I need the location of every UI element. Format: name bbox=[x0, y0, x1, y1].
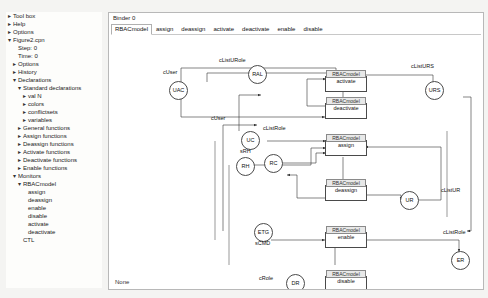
transition-deassign-label: deassign bbox=[335, 187, 357, 193]
tab-disable[interactable]: disable bbox=[299, 24, 326, 35]
place-rh[interactable]: RH bbox=[236, 157, 255, 176]
tree-item[interactable]: ▾Figure2.cpn bbox=[6, 36, 102, 44]
tree-item[interactable]: ▸Assign functions bbox=[6, 132, 102, 140]
tree-item-label: General functions bbox=[23, 124, 70, 132]
tree-item-label: conflictsets bbox=[28, 108, 58, 116]
tree-item[interactable]: ▸Enable functions bbox=[6, 164, 102, 172]
tab-deactivate[interactable]: deactivate bbox=[238, 24, 273, 35]
transition-deactivate[interactable]: RBACmodel deactivate bbox=[325, 103, 367, 119]
tree-item[interactable]: ▸Deassign functions bbox=[6, 140, 102, 148]
place-rc[interactable]: RC bbox=[264, 154, 283, 173]
tree-item[interactable]: ▸val N bbox=[6, 92, 102, 100]
tree-item-label: Deactivate functions bbox=[23, 156, 77, 164]
arc-label-cuser-top: cUser bbox=[163, 69, 177, 75]
tree-item-label: Time: 0 bbox=[18, 52, 38, 60]
transition-activate[interactable]: RBACmodel activate bbox=[325, 76, 367, 92]
petri-net-canvas[interactable]: RBACmodel activate RBACmodel deactivate … bbox=[111, 35, 479, 265]
tree-item[interactable]: ▾Monitors bbox=[6, 172, 102, 180]
transition-disable-tag: RBACmodel bbox=[326, 270, 366, 278]
tree-item-label: Monitors bbox=[18, 172, 41, 180]
place-ral[interactable]: RAL bbox=[248, 65, 267, 84]
status-text: None bbox=[115, 279, 129, 285]
project-tree-sidebar[interactable]: ▸Tool box▸Help▸Options▾Figure2.cpnStep: … bbox=[6, 12, 102, 288]
tree-item[interactable]: ▸Help bbox=[6, 20, 102, 28]
tree-item[interactable]: Time: 0 bbox=[6, 52, 102, 60]
tree-item[interactable]: ▸variables bbox=[6, 116, 102, 124]
place-er[interactable]: ER bbox=[451, 251, 470, 270]
arc-label-clistur: cListUR bbox=[441, 187, 460, 193]
transition-disable[interactable]: RBACmodel disable bbox=[325, 276, 367, 290]
tab-enable[interactable]: enable bbox=[273, 24, 299, 35]
transition-activate-tag: RBACmodel bbox=[326, 70, 366, 78]
place-rh-label: RH bbox=[242, 163, 250, 169]
place-ur[interactable]: UR bbox=[400, 191, 419, 210]
tree-item-label: Help bbox=[13, 20, 25, 28]
tree-item-label: activate bbox=[28, 220, 49, 228]
tab-deassign[interactable]: deassign bbox=[177, 24, 209, 35]
tree-item[interactable]: ▸Options bbox=[6, 60, 102, 68]
tree-item-label: enable bbox=[28, 204, 46, 212]
tree-item-label: Tool box bbox=[13, 12, 35, 20]
arc-label-clisturole-top: cListURole bbox=[219, 57, 246, 63]
tree-item[interactable]: enable bbox=[6, 204, 102, 212]
place-etg-label: ETG bbox=[258, 229, 269, 235]
arc-label-clistrole-mid: cListRole bbox=[263, 125, 286, 131]
binder-title: Binder 0 bbox=[113, 15, 135, 21]
tree-item-label: Declarations bbox=[18, 76, 51, 84]
arc-label-cuser-mid: cUser bbox=[211, 115, 225, 121]
place-dr[interactable]: DR bbox=[286, 274, 305, 290]
tree-item-label: Assign functions bbox=[23, 132, 67, 140]
tree-item-label: RBACmodel bbox=[23, 180, 56, 188]
transition-deassign[interactable]: RBACmodel deassign bbox=[325, 185, 367, 201]
transition-enable-label: enable bbox=[338, 234, 355, 240]
tab-rbacmodel[interactable]: RBACmodel bbox=[111, 24, 152, 35]
tree-item-label: Enable functions bbox=[23, 164, 67, 172]
tree-item[interactable]: ▸conflictsets bbox=[6, 108, 102, 116]
tree-item-label: CTL bbox=[23, 236, 34, 244]
transition-assign-tag: RBACmodel bbox=[326, 134, 366, 142]
tree-item-label: deassign bbox=[28, 196, 52, 204]
place-urs[interactable]: URS bbox=[425, 81, 444, 100]
tree-item[interactable]: ▸colors bbox=[6, 100, 102, 108]
tree-item[interactable]: ▾Standard declarations bbox=[6, 84, 102, 92]
transition-assign[interactable]: RBACmodel assign bbox=[325, 140, 367, 156]
tree-item[interactable]: disable bbox=[6, 212, 102, 220]
place-uc-label: UC bbox=[247, 137, 255, 143]
tree-item[interactable]: Step: 0 bbox=[6, 44, 102, 52]
tree-item-label: Standard declarations bbox=[23, 84, 81, 92]
tree-item[interactable]: ▸Deactivate functions bbox=[6, 156, 102, 164]
binder-tabstrip[interactable]: RBACmodelassigndeassignactivatedeactivat… bbox=[111, 24, 481, 35]
arc-label-crole: cRole bbox=[259, 275, 273, 281]
tree-item-label: Figure2.cpn bbox=[13, 36, 45, 44]
tree-item-label: Step: 0 bbox=[18, 44, 37, 52]
tree-item[interactable]: activate bbox=[6, 220, 102, 228]
transition-disable-label: disable bbox=[337, 278, 354, 284]
tree-item[interactable]: deactivate bbox=[6, 228, 102, 236]
arc-label-scmd: sCMD bbox=[255, 240, 270, 246]
tree-item[interactable]: assign bbox=[6, 188, 102, 196]
tree-item-label: assign bbox=[28, 188, 45, 196]
binder-window[interactable]: Binder 0 RBACmodelassigndeassignactivate… bbox=[108, 12, 484, 290]
tree-item[interactable]: ▸Activate functions bbox=[6, 148, 102, 156]
place-urs-label: URS bbox=[429, 87, 441, 93]
transition-activate-label: activate bbox=[337, 78, 356, 84]
tree-item[interactable]: ▸General functions bbox=[6, 124, 102, 132]
transition-deassign-tag: RBACmodel bbox=[326, 179, 366, 187]
tree-item[interactable]: ▾RBACmodel bbox=[6, 180, 102, 188]
tree-item[interactable]: ▸History bbox=[6, 68, 102, 76]
transition-enable[interactable]: RBACmodel enable bbox=[325, 232, 367, 248]
tab-assign[interactable]: assign bbox=[152, 24, 177, 35]
place-er-label: ER bbox=[457, 257, 465, 263]
tree-item-label: Options bbox=[18, 60, 39, 68]
tree-item-label: variables bbox=[28, 116, 52, 124]
tab-activate[interactable]: activate bbox=[209, 24, 238, 35]
tree-item[interactable]: ▸Options bbox=[6, 28, 102, 36]
place-uac[interactable]: UAC bbox=[169, 81, 188, 100]
place-dr-label: DR bbox=[292, 280, 300, 286]
tree-item[interactable]: CTL bbox=[6, 236, 102, 244]
transition-deactivate-label: deactivate bbox=[333, 105, 358, 111]
tree-item[interactable]: deassign bbox=[6, 196, 102, 204]
tree-item[interactable]: ▾Declarations bbox=[6, 76, 102, 84]
tree-item[interactable]: ▸Tool box bbox=[6, 12, 102, 20]
tree-item-label: Deassign functions bbox=[23, 140, 74, 148]
